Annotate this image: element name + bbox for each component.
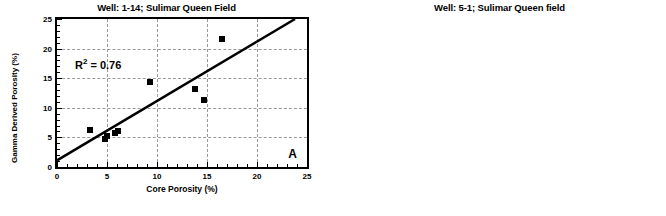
x-tick-label: 0 (55, 172, 59, 181)
panel-a-letter: A (288, 147, 297, 161)
panel-a-y-axis-label: Gamma Derived Porosity (%) (10, 53, 19, 163)
panel-a-title: Well: 1-14; Sulimar Queen Field (0, 2, 333, 13)
figure-two-panel-scatter: Well: 1-14; Sulimar Queen Field Gamma De… (0, 0, 666, 216)
panel-b-title: Well: 5-1; Sulimar Queen field (333, 2, 666, 13)
y-tick-mark (57, 167, 62, 168)
data-point-marker (115, 128, 121, 134)
data-point-marker (192, 86, 198, 92)
x-tick-mark (307, 162, 308, 167)
panel-a-plot-area: 05101520250510152025 R2 = 0.76 A Core Po… (55, 17, 309, 169)
regression-line (57, 19, 295, 160)
data-point-marker (219, 36, 225, 42)
panel-a-r-exponent: 2 (83, 57, 87, 66)
x-tick-label: 20 (253, 172, 262, 181)
x-tick-label: 25 (303, 172, 312, 181)
data-point-marker (147, 79, 153, 85)
y-tick-label: 25 (43, 15, 52, 24)
panel-a-x-axis-label: Core Porosity (%) (57, 184, 307, 194)
y-tick-label: 10 (43, 103, 52, 112)
panel-a-r-squared-annotation: R2 = 0.76 (75, 57, 121, 71)
panel-a-r-symbol: R (75, 59, 83, 71)
data-point-marker (201, 97, 207, 103)
x-tick-label: 5 (105, 172, 109, 181)
data-point-marker (104, 133, 110, 139)
panel-b: Well: 5-1; Sulimar Queen field 161820222… (333, 0, 666, 216)
panel-a-r-value: = 0.76 (90, 59, 121, 71)
panel-a: Well: 1-14; Sulimar Queen Field Gamma De… (0, 0, 333, 216)
x-tick-label: 10 (153, 172, 162, 181)
panel-a-trendline (57, 19, 307, 167)
y-tick-label: 20 (43, 44, 52, 53)
y-tick-label: 5 (48, 133, 52, 142)
y-tick-label: 0 (48, 163, 52, 172)
y-tick-label: 15 (43, 74, 52, 83)
x-tick-label: 15 (203, 172, 212, 181)
data-point-marker (87, 127, 93, 133)
